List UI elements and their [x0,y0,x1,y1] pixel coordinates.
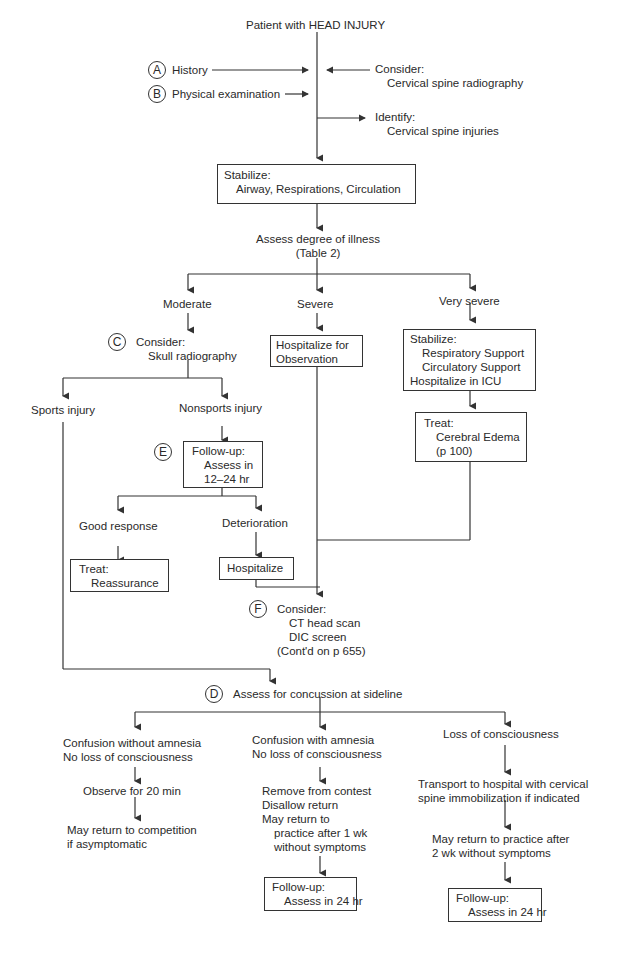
marker-f: F [249,600,267,618]
consider-ct-dic: Consider: CT head scan DIC screen (Cont'… [277,602,366,658]
assess-concussion-label: Assess for concussion at sideline [233,687,402,701]
return-competition: May return to competition if asymptomati… [67,823,197,851]
marker-a: A [148,61,166,79]
middle-branch-condition: Confusion with amnesia No loss of consci… [252,733,382,761]
middle-followup-box: Follow-up: Assess in 24 hr [264,877,357,911]
hospitalize-box: Hospitalize [219,557,294,580]
history-label: History [172,63,208,77]
middle-branch-actions: Remove from contest Disallow return May … [262,784,371,854]
marker-c: C [108,333,126,351]
left-branch-condition: Confusion without amnesia No loss of con… [63,736,201,764]
very-severe-label: Very severe [439,294,500,308]
marker-d: D [205,685,223,703]
right-followup-box: Follow-up: Assess in 24 hr [448,888,542,922]
treat-reassurance-box: Treat: Reassurance [70,559,169,592]
nonsports-injury-label: Nonsports injury [179,401,262,415]
consider-cervical: Consider: Cervical spine radiography [375,62,523,90]
deterioration-label: Deterioration [222,516,288,530]
stabilize-icu-box: Stabilize: Respiratory Support Circulato… [403,329,536,391]
consider-skull: Consider: Skull radiography [136,335,237,363]
right-branch-condition: Loss of consciousness [443,727,559,741]
identify-cervical: Identify: Cervical spine injuries [375,110,499,138]
marker-e: E [154,443,172,461]
treat-cerebral-edema-box: Treat: Cerebral Edema (p 100) [415,412,527,462]
sports-injury-label: Sports injury [31,403,95,417]
physical-exam-label: Physical examination [172,87,280,101]
hospitalize-observation-box: Hospitalize for Observation [270,335,363,367]
transport-hospital: Transport to hospital with cervical spin… [418,777,588,805]
flowchart-title: Patient with HEAD INJURY [246,18,385,32]
followup-12-24-box: Follow-up: Assess in 12–24 hr [183,441,263,488]
moderate-label: Moderate [163,297,212,311]
stabilize-box: Stabilize: Airway, Respirations, Circula… [217,164,416,204]
marker-b: B [148,85,166,103]
return-practice-2wk: May return to practice after 2 wk withou… [432,832,569,860]
severe-label: Severe [297,297,333,311]
observe-20-min: Observe for 20 min [83,784,181,798]
good-response-label: Good response [79,519,158,533]
assess-degree: Assess degree of illness (Table 2) [255,232,381,260]
